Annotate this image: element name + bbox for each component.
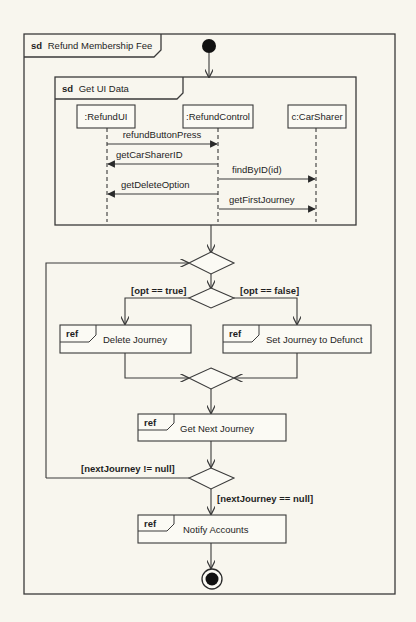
decision-node-opt <box>189 288 234 308</box>
ref-label: Delete Journey <box>103 334 167 345</box>
message-label: refundButtonPress <box>123 129 202 140</box>
lifeline-label: :RefundUI <box>85 111 128 122</box>
ref-get-next-journey: ref Get Next Journey <box>138 414 286 441</box>
ref-keyword: ref <box>66 328 79 339</box>
flow-delete-to-merge <box>125 353 188 378</box>
merge-node-opt <box>189 368 234 389</box>
interaction-overview-diagram: sd Refund Membership Fee sd Get UI Data … <box>0 0 416 622</box>
outer-frame-title: Refund Membership Fee <box>48 40 153 51</box>
flow-opt-true <box>125 298 189 324</box>
ref-label: Get Next Journey <box>180 423 254 434</box>
svg-text:sd Get UI Data: sd Get UI Data <box>62 83 130 94</box>
ref-label: Set Journey to Defunct <box>266 334 363 345</box>
flow-opt-false <box>234 298 297 324</box>
lifeline-label: c:CarSharer <box>291 111 342 122</box>
message-label: getDeleteOption <box>121 179 190 190</box>
ref-label: Notify Accounts <box>183 524 249 535</box>
outer-frame-keyword: sd <box>31 40 42 51</box>
inline-frame-keyword: sd <box>62 83 73 94</box>
guard-next-not-null: [nextJourney != null] <box>81 463 175 474</box>
guard-opt-false: [opt == false] <box>240 285 299 296</box>
flow-defunct-to-merge <box>235 353 297 378</box>
initial-node <box>202 39 216 53</box>
ref-delete-journey: ref Delete Journey <box>60 325 191 353</box>
lifeline-label: :RefundControl <box>186 111 250 122</box>
inline-frame-title: Get UI Data <box>79 83 130 94</box>
merge-node-loop <box>189 252 234 274</box>
final-node <box>202 569 222 589</box>
guard-next-null: [nextJourney == null] <box>217 493 313 504</box>
ref-keyword: ref <box>229 328 242 339</box>
message-findbyid: findByID(id) <box>219 164 315 179</box>
ref-keyword: ref <box>144 417 157 428</box>
inline-interaction-get-ui-data: sd Get UI Data :RefundUI :RefundControl … <box>55 77 356 225</box>
ref-set-journey-to-defunct: ref Set Journey to Defunct <box>223 325 371 353</box>
message-label: getCarSharerID <box>116 149 183 160</box>
message-getcarsharerid: getCarSharerID <box>108 149 218 164</box>
ref-keyword: ref <box>144 518 157 529</box>
decision-node-next-journey <box>189 468 234 489</box>
message-label: getFirstJourney <box>229 194 295 205</box>
guard-opt-true: [opt == true] <box>131 285 186 296</box>
message-refundbuttonpress: refundButtonPress <box>107 129 217 144</box>
ref-notify-accounts: ref Notify Accounts <box>138 515 286 543</box>
lifeline-carsharer: c:CarSharer <box>288 105 346 222</box>
svg-text:sd Refund Membership Fee: sd Refund Membership Fee <box>31 40 152 51</box>
message-getdeleteoption: getDeleteOption <box>108 179 218 194</box>
message-label: findByID(id) <box>232 164 282 175</box>
message-getfirstjourney: getFirstJourney <box>219 194 315 209</box>
